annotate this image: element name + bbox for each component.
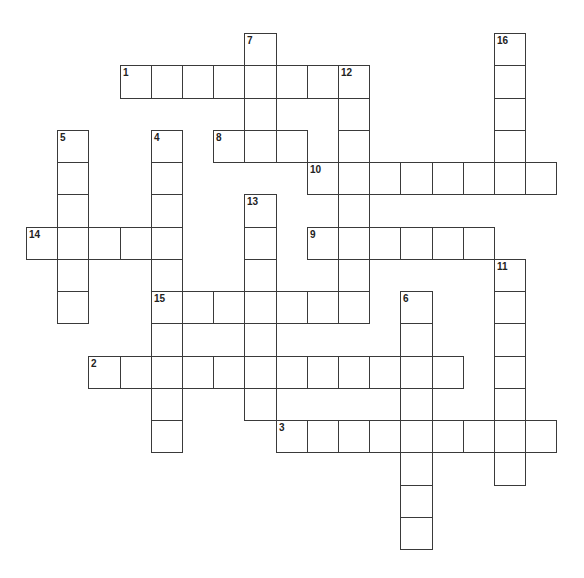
- crossword-cell[interactable]: 1: [120, 65, 152, 99]
- crossword-cell[interactable]: [151, 420, 183, 453]
- crossword-cell[interactable]: [432, 227, 464, 260]
- crossword-cell[interactable]: 16: [494, 33, 526, 66]
- crossword-cell[interactable]: [400, 420, 433, 453]
- crossword-cell[interactable]: [525, 162, 557, 195]
- crossword-cell[interactable]: [400, 227, 433, 260]
- crossword-cell[interactable]: [463, 420, 495, 453]
- crossword-cell[interactable]: [151, 259, 183, 292]
- crossword-cell[interactable]: [151, 194, 183, 228]
- crossword-cell[interactable]: [182, 65, 214, 99]
- crossword-cell[interactable]: [338, 162, 370, 195]
- crossword-cell[interactable]: [400, 485, 433, 518]
- crossword-cell[interactable]: [400, 323, 433, 357]
- crossword-cell[interactable]: 12: [338, 65, 370, 99]
- crossword-cell[interactable]: [151, 162, 183, 195]
- crossword-cell[interactable]: 4: [151, 130, 183, 163]
- crossword-cell[interactable]: 6: [400, 291, 433, 324]
- crossword-cell[interactable]: [432, 162, 464, 195]
- crossword-cell[interactable]: [400, 452, 433, 486]
- crossword-cell[interactable]: [338, 130, 370, 163]
- crossword-cell[interactable]: [244, 291, 277, 324]
- crossword-cell[interactable]: [276, 356, 308, 389]
- crossword-cell[interactable]: [369, 162, 401, 195]
- crossword-cell[interactable]: [400, 388, 433, 421]
- crossword-cell[interactable]: [494, 162, 526, 195]
- crossword-cell[interactable]: [307, 65, 339, 99]
- crossword-cell[interactable]: [244, 323, 277, 357]
- crossword-cell[interactable]: 14: [26, 227, 58, 260]
- crossword-cell[interactable]: 9: [307, 227, 339, 260]
- crossword-cell[interactable]: [244, 98, 277, 131]
- crossword-cell[interactable]: [120, 356, 152, 389]
- crossword-cell[interactable]: [338, 98, 370, 131]
- crossword-cell[interactable]: [57, 227, 89, 260]
- crossword-cell[interactable]: [151, 356, 183, 389]
- crossword-cell[interactable]: [57, 194, 89, 228]
- crossword-cell[interactable]: [369, 227, 401, 260]
- crossword-cell[interactable]: [244, 130, 277, 163]
- crossword-cell[interactable]: 10: [307, 162, 339, 195]
- crossword-cell[interactable]: [57, 291, 89, 324]
- crossword-cell[interactable]: [338, 259, 370, 292]
- clue-number-label: 14: [29, 229, 40, 240]
- crossword-cell[interactable]: [494, 356, 526, 389]
- crossword-cell[interactable]: [494, 452, 526, 486]
- crossword-cell[interactable]: [463, 162, 495, 195]
- crossword-cell[interactable]: [369, 356, 401, 389]
- crossword-cell[interactable]: 11: [494, 259, 526, 292]
- crossword-cell[interactable]: [276, 65, 308, 99]
- crossword-cell[interactable]: [338, 227, 370, 260]
- crossword-cell[interactable]: [307, 420, 339, 453]
- crossword-cell[interactable]: 3: [276, 420, 308, 453]
- crossword-cell[interactable]: [432, 420, 464, 453]
- crossword-cell[interactable]: [151, 388, 183, 421]
- crossword-cell[interactable]: [276, 291, 308, 324]
- crossword-cell[interactable]: [182, 356, 214, 389]
- crossword-cell[interactable]: [525, 420, 557, 453]
- crossword-cell[interactable]: 13: [244, 194, 277, 228]
- crossword-cell[interactable]: [151, 227, 183, 260]
- crossword-cell[interactable]: [213, 65, 245, 99]
- crossword-cell[interactable]: [400, 162, 433, 195]
- crossword-cell[interactable]: [244, 65, 277, 99]
- crossword-cell[interactable]: [338, 194, 370, 228]
- crossword-cell[interactable]: [494, 323, 526, 357]
- crossword-cell[interactable]: [213, 356, 245, 389]
- crossword-cell[interactable]: [494, 65, 526, 99]
- crossword-cell[interactable]: [400, 356, 433, 389]
- crossword-cell[interactable]: [276, 130, 308, 163]
- crossword-cell[interactable]: 7: [244, 33, 277, 66]
- crossword-cell[interactable]: [463, 227, 495, 260]
- clue-number-label: 15: [154, 293, 165, 304]
- crossword-cell[interactable]: [213, 291, 245, 324]
- crossword-cell[interactable]: 2: [88, 356, 121, 389]
- crossword-cell[interactable]: [494, 420, 526, 453]
- crossword-cell[interactable]: [88, 227, 121, 260]
- crossword-cell[interactable]: [307, 356, 339, 389]
- crossword-cell[interactable]: [151, 323, 183, 357]
- crossword-cell[interactable]: [494, 130, 526, 163]
- crossword-cell[interactable]: [494, 388, 526, 421]
- crossword-cell[interactable]: [57, 162, 89, 195]
- crossword-cell[interactable]: [400, 517, 433, 550]
- crossword-cell[interactable]: 8: [213, 130, 245, 163]
- crossword-cell[interactable]: [244, 388, 277, 421]
- crossword-cell[interactable]: [182, 291, 214, 324]
- crossword-cell[interactable]: 5: [57, 130, 89, 163]
- crossword-cell[interactable]: [432, 356, 464, 389]
- crossword-cell[interactable]: [338, 356, 370, 389]
- crossword-grid: 11223415567891011131416: [0, 0, 584, 578]
- crossword-cell[interactable]: [338, 291, 370, 324]
- crossword-cell[interactable]: [338, 420, 370, 453]
- crossword-cell[interactable]: [307, 291, 339, 324]
- crossword-cell[interactable]: [244, 227, 277, 260]
- crossword-cell[interactable]: [120, 227, 152, 260]
- crossword-cell[interactable]: 15: [151, 291, 183, 324]
- crossword-cell[interactable]: [57, 259, 89, 292]
- crossword-cell[interactable]: [494, 291, 526, 324]
- crossword-cell[interactable]: [244, 356, 277, 389]
- crossword-cell[interactable]: [151, 65, 183, 99]
- crossword-cell[interactable]: [494, 98, 526, 131]
- crossword-cell[interactable]: [369, 420, 401, 453]
- crossword-cell[interactable]: [244, 259, 277, 292]
